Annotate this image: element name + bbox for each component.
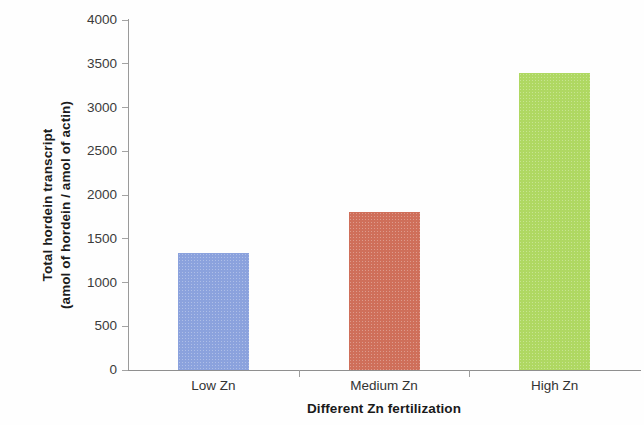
bar-high-zn bbox=[519, 73, 590, 371]
x-axis-category-label: Low Zn bbox=[128, 378, 299, 394]
x-axis-line bbox=[128, 370, 641, 371]
y-axis-tick-label: 3000 bbox=[59, 101, 117, 114]
x-axis-tick bbox=[469, 370, 470, 377]
bar-chart-figure: Total hordein transcript (amol of hordei… bbox=[0, 0, 644, 425]
x-axis-category-label: Medium Zn bbox=[299, 378, 470, 394]
y-axis-tick-label: 0 bbox=[59, 363, 117, 376]
y-axis-tick-label: 1500 bbox=[59, 232, 117, 245]
y-axis-tick-label: 2500 bbox=[59, 144, 117, 157]
x-axis-title: Different Zn fertilization bbox=[128, 401, 640, 416]
y-axis-tick-label-group: 05001000150020002500300035004000 bbox=[55, 0, 117, 425]
x-axis-category-label: High Zn bbox=[469, 378, 640, 394]
plot-area bbox=[128, 20, 640, 370]
y-axis-tick-label: 1000 bbox=[59, 276, 117, 289]
y-axis-tick-label: 4000 bbox=[59, 13, 117, 26]
bar-fill bbox=[519, 73, 590, 371]
bar-low-zn bbox=[178, 253, 249, 370]
x-axis-tick bbox=[299, 370, 300, 377]
y-axis-tick-label: 3500 bbox=[59, 57, 117, 70]
y-axis-tick-label: 500 bbox=[59, 319, 117, 332]
y-axis-tick-label: 2000 bbox=[59, 188, 117, 201]
bar-fill bbox=[349, 212, 420, 370]
bar-medium-zn bbox=[349, 212, 420, 370]
bar-fill bbox=[178, 253, 249, 370]
